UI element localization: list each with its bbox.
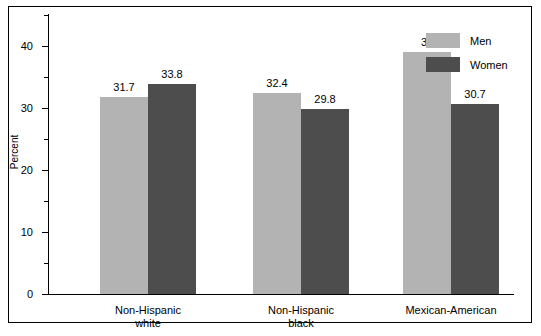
x-category-label-2-line1: Mexican-American	[405, 304, 496, 317]
bar-men-mexican-american: 39	[403, 52, 451, 294]
y-tick-label-30: 30	[21, 103, 33, 114]
y-tick-label-20: 20	[21, 165, 33, 176]
bar-women-non-hispanic-white: 33.8	[148, 84, 196, 294]
y-axis-title: Percent	[9, 135, 20, 169]
bar-women-non-hispanic-black: 29.8	[301, 109, 349, 294]
legend-label-men: Men	[470, 35, 491, 47]
x-category-label-2: Mexican-American	[405, 294, 496, 317]
bar-value-women-1: 29.8	[314, 94, 335, 105]
legend-swatch-women	[426, 57, 460, 72]
legend-item-men: Men	[426, 32, 508, 49]
plot-area: 31.7 33.8 32.4 29.8 39 30.7 Men Women	[48, 14, 514, 294]
x-category-label-0-line2: white	[115, 317, 181, 330]
legend-item-women: Women	[426, 56, 508, 73]
y-tick-label-0: 0	[27, 289, 33, 300]
bar-women-mexican-american: 30.7	[451, 104, 499, 294]
x-category-label-0: Non-Hispanic white	[115, 294, 181, 330]
bar-men-non-hispanic-white: 31.7	[100, 97, 148, 294]
y-tick-label-40: 40	[21, 41, 33, 52]
bar-men-non-hispanic-black: 32.4	[253, 93, 301, 294]
legend-label-women: Women	[470, 59, 508, 71]
bar-value-women-0: 33.8	[161, 69, 182, 80]
legend: Men Women	[426, 32, 508, 80]
bar-value-men-1: 32.4	[266, 78, 287, 89]
x-category-label-0-line1: Non-Hispanic	[115, 304, 181, 317]
bar-value-women-2: 30.7	[464, 89, 485, 100]
bar-chart: Percent 0 10 20 30 40 31.7 33.8	[0, 0, 541, 336]
x-category-label-1-line2: black	[268, 317, 334, 330]
bar-value-men-0: 31.7	[113, 82, 134, 93]
y-tick-label-10: 10	[21, 227, 33, 238]
x-category-label-1: Non-Hispanic black	[268, 294, 334, 330]
legend-swatch-men	[426, 33, 460, 48]
x-category-label-1-line1: Non-Hispanic	[268, 304, 334, 317]
